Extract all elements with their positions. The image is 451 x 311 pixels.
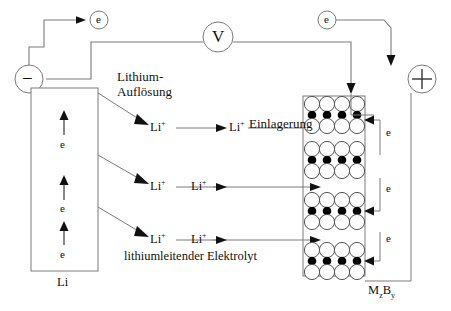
ion-charge: + xyxy=(161,178,166,187)
cathode-anion-symbol: B xyxy=(383,283,391,297)
cathode-electron-label-2: e xyxy=(386,182,391,194)
ion-charge: + xyxy=(161,231,166,240)
anode-electron-label-2: e xyxy=(60,202,65,214)
lithium-dissolution-title-line2: Auflösung xyxy=(117,85,172,100)
lattice-group-4 xyxy=(304,242,364,279)
electron-node-right-label: e xyxy=(324,13,329,25)
ion-symbol: Li xyxy=(191,232,202,246)
ion-label-left-1: Li+ xyxy=(150,120,166,134)
lithium-dissolution-title-line1: Lithium- xyxy=(117,70,163,85)
voltmeter-label: V xyxy=(212,27,224,46)
cathode-material-label: MzBy xyxy=(368,283,395,300)
ion-label-left-3: Li+ xyxy=(150,232,166,246)
diagram-canvas: − V e e Lithium- Auflösung e e e Li Li+ … xyxy=(0,0,451,311)
positive-terminal-icon xyxy=(408,65,436,93)
ion-charge: + xyxy=(202,178,207,187)
ion-label-left-2: Li+ xyxy=(150,179,166,193)
battery-schematic-svg xyxy=(0,0,451,311)
arrow-electron-bus-down xyxy=(347,83,356,94)
ion-symbol: Li xyxy=(150,179,161,193)
electron-node-left-label: e xyxy=(96,13,101,25)
anode-electron-label-3: e xyxy=(60,248,65,260)
ion-label-right-2: Li+ xyxy=(191,179,207,193)
lattice-group-2 xyxy=(304,141,364,178)
cathode-anion-sub: y xyxy=(391,291,395,300)
lithium-dissolution-arrowheads xyxy=(134,114,149,237)
anode-material-label: Li xyxy=(57,275,68,289)
cathode-electron-label-3: e xyxy=(386,232,391,244)
ion-charge: + xyxy=(202,231,207,240)
ion-label-right-3: Li+ xyxy=(191,232,207,246)
negative-terminal-label: − xyxy=(22,68,33,89)
ion-charge: + xyxy=(240,119,245,128)
lattice-group-3 xyxy=(304,192,364,229)
ion-symbol: Li xyxy=(150,232,161,246)
ion-symbol: Li xyxy=(229,120,240,134)
wire-left-branch xyxy=(29,20,203,79)
electrolyte-label: lithiumleitender Elektrolyt xyxy=(124,249,257,263)
arrow-into-left-electron xyxy=(76,16,86,24)
arrow-into-positive-terminal xyxy=(387,55,396,66)
ion-label-right-1: Li+ xyxy=(229,120,245,134)
cathode-metal-symbol: M xyxy=(368,283,379,297)
cathode-electron-label-1: e xyxy=(386,126,391,138)
intercalation-label: Einlagerung xyxy=(249,117,313,132)
wire-right-branch xyxy=(233,20,391,83)
anode-electron-label-1: e xyxy=(60,138,65,150)
ion-charge: + xyxy=(161,119,166,128)
lithium-dissolution-arrows xyxy=(98,93,145,235)
ion-symbol: Li xyxy=(150,120,161,134)
ion-symbol: Li xyxy=(191,179,202,193)
